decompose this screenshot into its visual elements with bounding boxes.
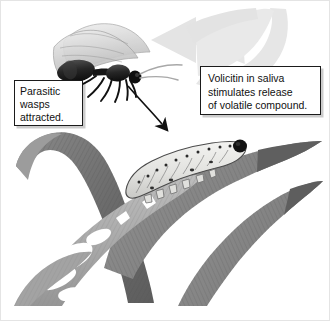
callout-parasitic-wasps: Parasitic wasps attracted. — [14, 80, 83, 126]
callout-volicitin-line-2: stimulates release — [208, 86, 320, 100]
callout-wasp-line-3: attracted. — [20, 111, 82, 124]
callout-volicitin: Volicitin in saliva stimulates release o… — [200, 66, 321, 115]
callout-wasp-line-2: wasps — [20, 98, 82, 111]
illustration-canvas — [0, 0, 330, 321]
callout-volicitin-line-1: Volicitin in saliva — [208, 72, 320, 86]
callout-wasp-line-1: Parasitic — [20, 85, 82, 98]
callout-volicitin-line-3: of volatile compound. — [208, 99, 320, 113]
figure-container: Parasitic wasps attracted. Volicitin in … — [0, 0, 330, 321]
attraction-arrow-icon — [128, 86, 162, 124]
